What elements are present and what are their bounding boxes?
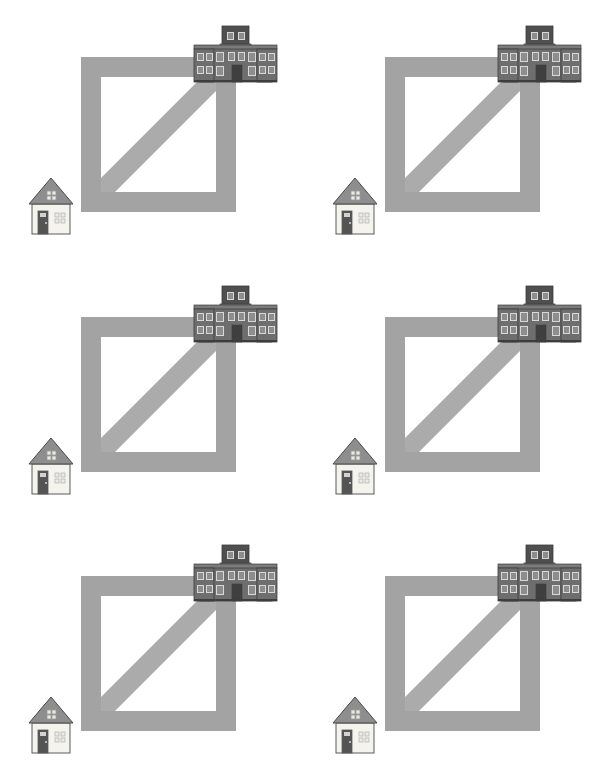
building-roof-cornice	[498, 45, 581, 49]
house-door-panel	[40, 732, 46, 736]
building-door	[536, 65, 546, 82]
school-building	[194, 26, 277, 82]
scene-grid-canvas: scene	[0, 0, 608, 779]
small-house	[333, 178, 377, 234]
diagonal-band	[405, 77, 520, 192]
diagonal-band	[101, 77, 216, 192]
building-roof-cornice	[498, 305, 581, 309]
scene-cell-3: scene	[0, 260, 304, 520]
building-door	[536, 584, 546, 601]
house-door-panel	[344, 473, 350, 477]
building-door	[536, 325, 546, 342]
small-house	[29, 178, 73, 234]
house-door-knob	[349, 741, 351, 743]
school-building	[498, 545, 581, 601]
diagonal-band	[101, 337, 216, 452]
building-plinth	[194, 340, 277, 342]
building-door	[232, 65, 242, 82]
house-door-knob	[45, 482, 47, 484]
house-door-panel	[344, 213, 350, 217]
school-building	[194, 545, 277, 601]
diagonal-band	[405, 337, 520, 452]
building-plinth	[498, 340, 581, 342]
school-building	[498, 286, 581, 342]
scene-graphic	[0, 519, 304, 779]
building-plinth	[498, 599, 581, 601]
building-door	[232, 584, 242, 601]
building-roof-cornice	[498, 564, 581, 568]
small-house	[29, 697, 73, 753]
house-door-knob	[349, 222, 351, 224]
small-house	[333, 697, 377, 753]
diagonal-band	[405, 596, 520, 711]
school-building	[498, 26, 581, 82]
scene-cell-2: scene	[304, 0, 608, 260]
diagonal-band	[101, 596, 216, 711]
building-plinth	[194, 599, 277, 601]
house-door-knob	[349, 482, 351, 484]
house-door-panel	[344, 732, 350, 736]
scene-cell-5: scene	[0, 519, 304, 779]
building-plinth	[194, 80, 277, 82]
scene-cell-1: scene	[0, 0, 304, 260]
small-house	[333, 438, 377, 494]
building-plinth	[498, 80, 581, 82]
building-roof-cornice	[194, 45, 277, 49]
house-door-knob	[45, 222, 47, 224]
scene-graphic	[0, 260, 304, 520]
school-building	[194, 286, 277, 342]
building-roof-cornice	[194, 305, 277, 309]
scene-graphic	[304, 260, 608, 520]
scene-graphic	[304, 0, 608, 260]
scene-graphic	[304, 519, 608, 779]
building-roof-cornice	[194, 564, 277, 568]
house-door-panel	[40, 213, 46, 217]
scene-graphic	[0, 0, 304, 260]
house-door-knob	[45, 741, 47, 743]
building-door	[232, 325, 242, 342]
scene-cell-4: scene	[304, 260, 608, 520]
small-house	[29, 438, 73, 494]
house-door-panel	[40, 473, 46, 477]
scene-cell-6: scene	[304, 519, 608, 779]
